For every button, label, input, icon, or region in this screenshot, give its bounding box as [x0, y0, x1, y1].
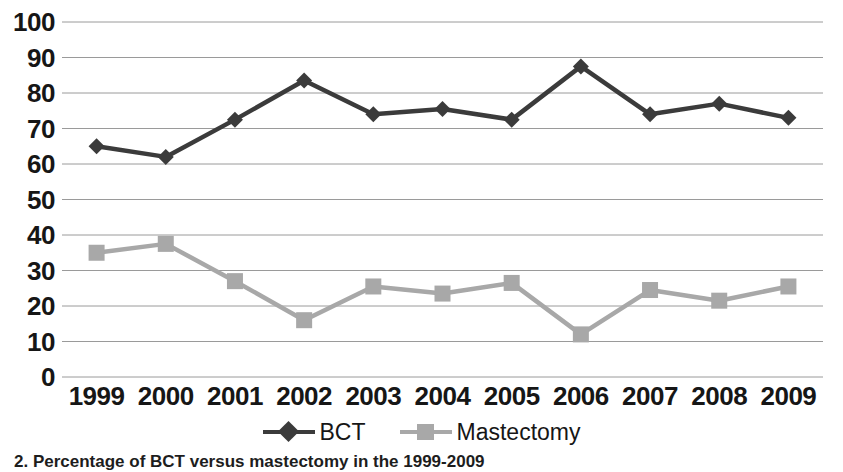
data-point-square-icon[interactable]: [89, 245, 105, 261]
x-axis-tick-label: 2000: [126, 383, 206, 409]
legend-label-mastectomy: Mastectomy: [457, 421, 581, 444]
data-point-diamond-icon[interactable]: [435, 101, 451, 117]
legend-swatch-mastectomy: [400, 422, 452, 442]
data-point-square-icon[interactable]: [780, 278, 796, 294]
x-axis-tick-labels: 1999200020012002200320042005200620072008…: [62, 383, 823, 417]
x-axis-tick-label: 2007: [610, 383, 690, 409]
data-point-square-icon[interactable]: [711, 293, 727, 309]
x-axis-tick-label: 1999: [57, 383, 137, 409]
data-point-diamond-icon[interactable]: [365, 106, 381, 122]
data-point-square-icon[interactable]: [504, 275, 520, 291]
chart-legend: BCT Mastectomy: [0, 417, 843, 447]
series-layer: [89, 58, 797, 342]
legend-label-bct: BCT: [320, 421, 366, 444]
x-axis-tick-label: 2003: [333, 383, 413, 409]
x-axis-tick-label: 2008: [679, 383, 759, 409]
data-point-square-icon[interactable]: [435, 286, 451, 302]
data-point-diamond-icon[interactable]: [780, 110, 796, 126]
series-mastectomy: [89, 236, 797, 343]
chart-plot-area: 1009080706050403020100 19992000200120022…: [0, 0, 843, 395]
x-axis-tick-label: 2005: [472, 383, 552, 409]
data-point-square-icon[interactable]: [227, 273, 243, 289]
x-axis-tick-label: 2004: [403, 383, 483, 409]
figure-caption: 2. Percentage of BCT versus mastectomy i…: [14, 452, 814, 472]
x-axis-tick-label: 2001: [195, 383, 275, 409]
series-bct: [89, 58, 797, 165]
x-axis-tick-label: 2009: [748, 383, 828, 409]
data-point-square-icon[interactable]: [158, 236, 174, 252]
data-point-square-icon[interactable]: [365, 278, 381, 294]
data-point-square-icon[interactable]: [296, 312, 312, 328]
gridlines: [62, 22, 823, 377]
chart-canvas: [0, 0, 843, 395]
data-point-diamond-icon[interactable]: [89, 138, 105, 154]
x-axis-tick-label: 2006: [541, 383, 621, 409]
x-axis-tick-label: 2002: [264, 383, 344, 409]
legend-item-bct[interactable]: BCT: [263, 421, 366, 444]
legend-item-mastectomy[interactable]: Mastectomy: [400, 421, 581, 444]
data-point-diamond-icon[interactable]: [158, 149, 174, 165]
diamond-marker-icon: [277, 421, 298, 442]
data-point-diamond-icon[interactable]: [711, 96, 727, 112]
square-marker-icon: [417, 424, 434, 440]
data-point-square-icon[interactable]: [573, 326, 589, 342]
data-point-square-icon[interactable]: [642, 282, 658, 298]
legend-swatch-bct: [263, 422, 315, 442]
